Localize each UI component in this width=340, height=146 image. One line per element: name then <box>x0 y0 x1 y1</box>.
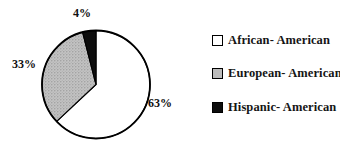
legend-item-hispanic-american: Hispanic- American <box>212 100 340 114</box>
legend-item-european-american: European- American <box>212 67 340 81</box>
legend-swatch-black <box>212 102 223 113</box>
legend-swatch-gray <box>212 68 223 79</box>
legend: African- American European- American His… <box>212 33 340 134</box>
legend-item-african-american: African- American <box>212 33 340 47</box>
pie-value-label-1: 33% <box>12 57 36 71</box>
legend-swatch-white <box>212 35 223 46</box>
pie-chart-figure: 63%33%4% African- American European- Ame… <box>0 0 340 146</box>
legend-label-hispanic-american: Hispanic- American <box>228 100 336 115</box>
legend-label-african-american: African- American <box>228 33 330 48</box>
pie-value-label-0: 63% <box>148 96 172 110</box>
pie-value-label-2: 4% <box>73 6 91 20</box>
legend-label-european-american: European- American <box>228 66 340 81</box>
